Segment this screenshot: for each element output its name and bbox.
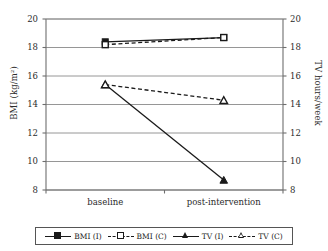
y-axis-right-tick-label: 14 bbox=[290, 99, 308, 109]
y-axis-left-tick-label: 8 bbox=[20, 185, 38, 195]
chart-legend: BMI (I)BMI (C)TV (I)TV (C) bbox=[35, 227, 293, 245]
legend-marker-triangle-filled-icon bbox=[182, 232, 188, 238]
y-axis-left-tick-label: 20 bbox=[20, 14, 38, 24]
y-axis-left-tick-label: 16 bbox=[20, 71, 38, 81]
series-marker-tv-c bbox=[220, 97, 228, 104]
legend-label: TV (I) bbox=[202, 232, 224, 241]
legend-label: BMI (C) bbox=[137, 232, 167, 241]
legend-label: BMI (I) bbox=[74, 232, 101, 241]
series-line-tv-c bbox=[105, 85, 224, 101]
y-axis-right-tick-label: 18 bbox=[290, 42, 308, 52]
series-marker-bmi-c bbox=[221, 35, 227, 41]
series-line-tv-i bbox=[105, 85, 224, 180]
series-marker-bmi-c bbox=[102, 42, 108, 48]
legend-key bbox=[45, 231, 71, 242]
legend-marker-triangle-open-icon bbox=[238, 232, 244, 238]
chart-figure: BMI (kg/m²) TV hours/week 81012141618208… bbox=[0, 0, 328, 251]
legend-label: TV (C) bbox=[258, 232, 282, 241]
y-axis-right-tick-label: 10 bbox=[290, 156, 308, 166]
legend-item-tv-i[interactable]: TV (I) bbox=[173, 231, 224, 242]
legend-marker-square-open-icon bbox=[117, 232, 124, 239]
y-axis-left-tick-label: 14 bbox=[20, 99, 38, 109]
x-axis-category-post-intervention: post-intervention bbox=[164, 197, 284, 207]
series-marker-tv-c bbox=[101, 81, 109, 88]
chart-plot-area bbox=[0, 0, 328, 251]
x-axis-category-baseline: baseline bbox=[45, 197, 165, 207]
legend-marker-square-filled-icon bbox=[54, 232, 61, 239]
legend-key bbox=[108, 231, 134, 242]
y-axis-right-tick-label: 8 bbox=[290, 185, 308, 195]
y-axis-left-tick-label: 12 bbox=[20, 128, 38, 138]
legend-key bbox=[173, 231, 199, 242]
legend-key bbox=[229, 231, 255, 242]
legend-item-bmi-i[interactable]: BMI (I) bbox=[45, 231, 101, 242]
y-axis-right-tick-label: 16 bbox=[290, 71, 308, 81]
y-axis-right-title: TV hours/week bbox=[313, 43, 323, 143]
legend-item-bmi-c[interactable]: BMI (C) bbox=[108, 231, 167, 242]
y-axis-right-tick-label: 20 bbox=[290, 14, 308, 24]
y-axis-right-tick-label: 12 bbox=[290, 128, 308, 138]
y-axis-left-tick-label: 18 bbox=[20, 42, 38, 52]
legend-item-tv-c[interactable]: TV (C) bbox=[229, 231, 282, 242]
y-axis-left-title: BMI (kg/m²) bbox=[9, 43, 19, 143]
y-axis-left-tick-label: 10 bbox=[20, 156, 38, 166]
